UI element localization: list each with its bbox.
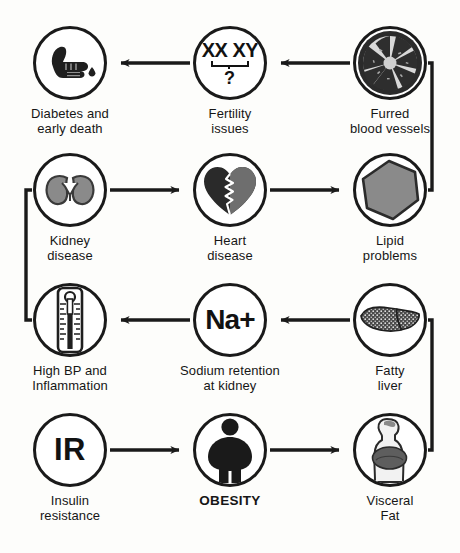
label-line-2: disease (165, 248, 295, 263)
label-line-1: Diabetes and (5, 106, 135, 121)
label-line-2: liver (325, 378, 455, 393)
svg-text:Na+: Na+ (205, 304, 255, 335)
lipid-problems-circle[interactable] (353, 153, 427, 227)
visceral-fat-body-icon (356, 416, 424, 484)
obese-person-icon (196, 416, 264, 484)
node-fatty-liver[interactable]: Fatty liver (325, 283, 455, 393)
label-line-2: issues (165, 121, 295, 136)
node-label: Sodium retention at kidney (150, 363, 310, 393)
label-line-1: Kidney (5, 233, 135, 248)
node-diabetes[interactable]: Diabetes and early death (5, 26, 135, 136)
lipid-droplet-hexagon-icon (356, 156, 424, 224)
node-high-bp-inflammation[interactable]: High BP and Inflammation (5, 283, 135, 393)
artery-cross-section-plaque-icon (356, 29, 424, 97)
finger-prick-blood-drop-icon (36, 29, 104, 97)
node-label: Heart disease (165, 233, 295, 263)
label-line-2: early death (5, 121, 135, 136)
node-label: Fatty liver (325, 363, 455, 393)
label-line-1: Heart (165, 233, 295, 248)
metabolic-cascade-diagram: Diabetes and early death XX XY ? Fertili… (0, 0, 460, 553)
insulin-resistance-ir-icon: IR (36, 416, 104, 484)
label-line-1: Insulin (5, 493, 135, 508)
label-line-1: Fertility (165, 106, 295, 121)
label-line-1: Visceral (325, 493, 455, 508)
label-line-2: resistance (5, 508, 135, 523)
node-label: Fertility issues (165, 106, 295, 136)
svg-text:IR: IR (54, 432, 86, 467)
chromosome-xx-xy-icon: XX XY ? (196, 29, 264, 97)
node-label: Visceral Fat (325, 493, 455, 523)
label-line-1: OBESITY (165, 493, 295, 508)
label-line-2: problems (325, 248, 455, 263)
high-bp-inflammation-circle[interactable] (33, 283, 107, 357)
node-kidney-disease[interactable]: Kidney disease (5, 153, 135, 263)
svg-text:XX XY: XX XY (202, 39, 260, 61)
label-line-2: blood vessels (325, 121, 455, 136)
node-label: High BP and Inflammation (5, 363, 135, 393)
node-fertility[interactable]: XX XY ? Fertility issues (165, 26, 295, 136)
sodium-retention-circle[interactable]: Na+ (193, 283, 267, 357)
label-line-2: disease (5, 248, 135, 263)
label-line-2: at kidney (150, 378, 310, 393)
node-label: Kidney disease (5, 233, 135, 263)
kidneys-icon (36, 156, 104, 224)
label-line-1: Lipid (325, 233, 455, 248)
kidney-disease-circle[interactable] (33, 153, 107, 227)
node-label: Furred blood vessels (325, 106, 455, 136)
fatty-liver-icon (356, 286, 424, 354)
node-obesity[interactable]: OBESITY (165, 413, 295, 508)
sodium-ion-icon: Na+ (196, 286, 264, 354)
svg-text:?: ? (224, 68, 235, 88)
node-label: Lipid problems (325, 233, 455, 263)
cracked-heart-icon (196, 156, 264, 224)
node-label: Diabetes and early death (5, 106, 135, 136)
obesity-circle[interactable] (193, 413, 267, 487)
node-label: Insulin resistance (5, 493, 135, 523)
visceral-fat-circle[interactable] (353, 413, 427, 487)
node-furred-vessels[interactable]: Furred blood vessels (325, 26, 455, 136)
label-line-2: Fat (325, 508, 455, 523)
heart-disease-circle[interactable] (193, 153, 267, 227)
label-line-2: Inflammation (5, 378, 135, 393)
furred-vessels-circle[interactable] (353, 26, 427, 100)
node-visceral-fat[interactable]: Visceral Fat (325, 413, 455, 523)
insulin-resistance-circle[interactable]: IR (33, 413, 107, 487)
label-line-1: Sodium retention (150, 363, 310, 378)
node-lipid-problems[interactable]: Lipid problems (325, 153, 455, 263)
node-insulin-resistance[interactable]: IR Insulin resistance (5, 413, 135, 523)
diabetes-circle[interactable] (33, 26, 107, 100)
fatty-liver-circle[interactable] (353, 283, 427, 357)
label-line-1: High BP and (5, 363, 135, 378)
fertility-circle[interactable]: XX XY ? (193, 26, 267, 100)
thermometer-icon (36, 286, 104, 354)
label-line-1: Furred (325, 106, 455, 121)
label-line-1: Fatty (325, 363, 455, 378)
node-sodium-retention[interactable]: Na+ Sodium retention at kidney (165, 283, 295, 393)
node-heart-disease[interactable]: Heart disease (165, 153, 295, 263)
node-label: OBESITY (165, 493, 295, 508)
